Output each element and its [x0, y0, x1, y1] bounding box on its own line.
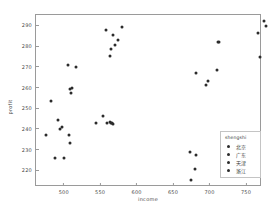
- x-tick-label: 750: [241, 185, 251, 195]
- y-tick-label: 250: [22, 105, 36, 111]
- data-point: [207, 80, 210, 83]
- data-point: [256, 32, 259, 35]
- data-point: [75, 66, 78, 69]
- data-point: [104, 28, 107, 31]
- data-point: [194, 71, 197, 74]
- data-point: [264, 24, 267, 27]
- data-point: [108, 54, 111, 57]
- x-tick-label: 550: [95, 185, 105, 195]
- y-tick-label: 290: [22, 22, 36, 28]
- legend-marker-icon: [227, 153, 230, 156]
- legend-marker-icon: [227, 161, 230, 164]
- data-point: [68, 142, 71, 145]
- data-point: [116, 38, 119, 41]
- data-point: [50, 100, 53, 103]
- data-point: [263, 20, 266, 23]
- legend[interactable]: shengshi 北京广东天津浙江: [220, 131, 261, 178]
- data-point: [94, 121, 97, 124]
- data-point: [69, 91, 72, 94]
- data-point: [121, 26, 124, 29]
- y-tick-label: 270: [22, 64, 36, 70]
- legend-item-label: 广东: [236, 151, 246, 158]
- data-point: [67, 63, 70, 66]
- legend-entries: 北京广东天津浙江: [225, 142, 256, 174]
- data-point: [67, 134, 70, 137]
- legend-item[interactable]: 浙江: [225, 166, 256, 174]
- data-point: [56, 118, 59, 121]
- data-point: [53, 156, 56, 159]
- legend-marker-icon: [227, 169, 230, 172]
- data-point: [188, 150, 191, 153]
- y-tick-label: 280: [22, 43, 36, 49]
- data-point: [217, 40, 220, 43]
- data-point: [195, 153, 198, 156]
- data-point: [112, 34, 115, 37]
- x-tick-label: 650: [168, 185, 178, 195]
- x-axis-label: income: [138, 196, 158, 202]
- data-point: [63, 156, 66, 159]
- legend-title: shengshi: [225, 135, 256, 140]
- y-tick-label: 230: [22, 147, 36, 153]
- x-tick-label: 700: [204, 185, 214, 195]
- legend-item[interactable]: 广东: [225, 150, 256, 158]
- y-tick-label: 260: [22, 85, 36, 91]
- data-point: [71, 86, 74, 89]
- data-point: [258, 56, 261, 59]
- data-point: [189, 178, 192, 181]
- legend-item[interactable]: 北京: [225, 142, 256, 150]
- x-tick-label: 600: [132, 185, 142, 195]
- data-point: [215, 68, 218, 71]
- legend-item-label: 天津: [236, 159, 246, 166]
- data-point: [204, 84, 207, 87]
- y-tick-label: 220: [22, 167, 36, 173]
- data-point: [110, 48, 113, 51]
- data-point: [45, 133, 48, 136]
- data-point: [102, 115, 105, 118]
- legend-marker-icon: [227, 145, 230, 148]
- data-point: [60, 126, 63, 129]
- legend-item-label: 北京: [236, 143, 246, 150]
- data-point: [114, 43, 117, 46]
- x-tick-label: 500: [59, 185, 69, 195]
- data-point: [111, 122, 114, 125]
- legend-item-label: 浙江: [236, 167, 246, 174]
- y-axis-label: profit: [7, 99, 13, 114]
- legend-item[interactable]: 天津: [225, 158, 256, 166]
- y-tick-label: 240: [22, 126, 36, 132]
- data-point: [193, 168, 196, 171]
- scatter-plot-figure: profit income 220230240250260270280290 5…: [0, 0, 271, 213]
